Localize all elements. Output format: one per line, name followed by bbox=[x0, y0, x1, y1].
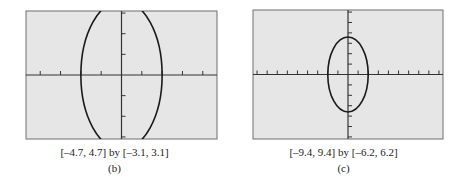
graph-c bbox=[229, 0, 458, 145]
graph-b bbox=[0, 0, 229, 145]
window-label-c: [–9.4, 9.4] by [–6.2, 6.2] bbox=[229, 146, 458, 159]
graph-panel-c: [–9.4, 9.4] by [–6.2, 6.2] (c) bbox=[229, 0, 458, 183]
panel-letter-c: (c) bbox=[229, 162, 458, 175]
window-label-b: [–4.7, 4.7] by [–3.1, 3.1] bbox=[0, 146, 229, 159]
graph-panel-b: [–4.7, 4.7] by [–3.1, 3.1] (b) bbox=[0, 0, 229, 183]
panel-letter-b: (b) bbox=[0, 162, 229, 175]
